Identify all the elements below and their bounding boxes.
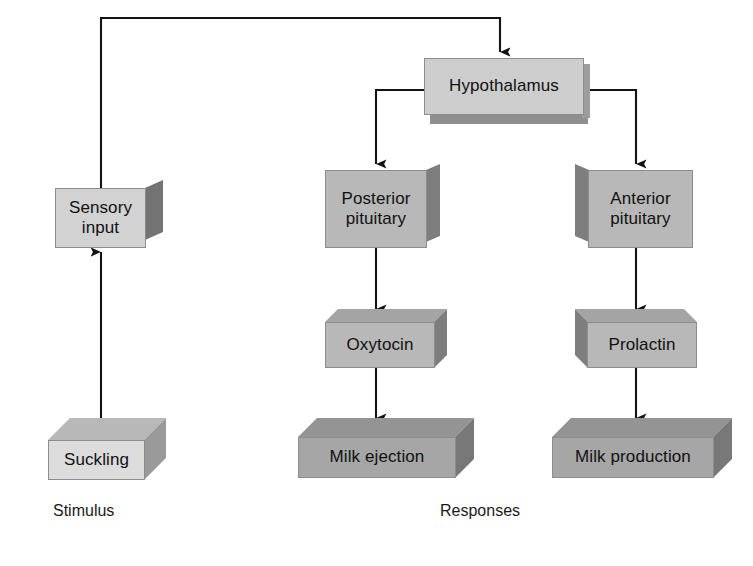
hypothalamus-front-face: Hypothalamus <box>424 58 584 115</box>
prolactin-front-face: Prolactin <box>587 322 697 368</box>
connector-layer <box>0 0 753 566</box>
sensory-input-front-face: Sensory input <box>55 188 146 248</box>
posterior-pituitary-front-face: Posterior pituitary <box>325 170 427 248</box>
node-sensory-input[interactable]: Sensory input <box>55 188 163 250</box>
oxytocin-label: Oxytocin <box>347 335 414 355</box>
edge-hypothalamus-to-posterior-pituitary <box>376 90 424 164</box>
hypothalamus-bottom-face <box>430 114 588 124</box>
node-suckling[interactable]: Suckling <box>48 418 166 480</box>
milk-production-top-face <box>552 418 732 437</box>
milk-production-front-face: Milk production <box>552 437 714 478</box>
anterior-pituitary-left-face <box>575 164 589 248</box>
oxytocin-front-face: Oxytocin <box>325 322 435 368</box>
node-oxytocin[interactable]: Oxytocin <box>325 309 447 369</box>
node-anterior-pituitary[interactable]: Anterior pituitary <box>575 170 697 250</box>
hypothalamus-label: Hypothalamus <box>449 76 559 96</box>
milk-ejection-label: Milk ejection <box>330 447 425 467</box>
posterior-pituitary-right-face <box>426 164 440 248</box>
milk-ejection-front-face: Milk ejection <box>298 437 456 478</box>
anterior-pituitary-front-face: Anterior pituitary <box>588 170 693 248</box>
diagram-canvas: Hypothalamus Sensory input Suckling Post… <box>0 0 753 566</box>
node-posterior-pituitary[interactable]: Posterior pituitary <box>325 170 445 250</box>
oxytocin-top-face <box>325 309 447 322</box>
milk-production-label: Milk production <box>575 447 691 467</box>
node-hypothalamus[interactable]: Hypothalamus <box>424 58 588 130</box>
caption-responses: Responses <box>440 502 520 520</box>
prolactin-label: Prolactin <box>608 335 675 355</box>
posterior-pituitary-label: Posterior pituitary <box>342 189 411 229</box>
caption-stimulus: Stimulus <box>53 502 114 520</box>
node-milk-production[interactable]: Milk production <box>552 418 732 480</box>
prolactin-top-face <box>575 309 697 322</box>
anterior-pituitary-label: Anterior pituitary <box>610 189 670 229</box>
sensory-input-right-face <box>145 180 163 248</box>
sensory-input-label: Sensory input <box>69 198 132 238</box>
node-prolactin[interactable]: Prolactin <box>575 309 697 369</box>
edge-hypothalamus-to-anterior-pituitary <box>588 90 636 164</box>
node-milk-ejection[interactable]: Milk ejection <box>298 418 474 480</box>
suckling-label: Suckling <box>64 450 129 470</box>
suckling-front-face: Suckling <box>48 440 145 480</box>
milk-ejection-top-face <box>298 418 474 437</box>
